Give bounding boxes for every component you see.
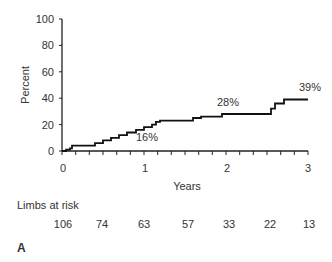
y-tick-labels: 0 20 40 60 80 100: [36, 13, 54, 157]
annotation-28pct: 28%: [217, 96, 239, 108]
x-axis-label: Years: [173, 180, 201, 192]
risk-value: 63: [138, 218, 150, 230]
x-tick-labels: 0 1 2 3: [60, 162, 311, 174]
risk-value: 13: [303, 218, 315, 230]
y-tick-0: 0: [48, 145, 54, 157]
annotation-16pct: 16%: [136, 131, 158, 143]
y-tick-80: 80: [42, 39, 54, 51]
y-tick-60: 60: [42, 66, 54, 78]
panel-label: A: [17, 241, 26, 255]
annotation-39pct: 39%: [299, 81, 321, 93]
x-tick-1: 1: [142, 162, 148, 174]
chart-svg: 0 20 40 60 80 100 0 1 2 3 16% 28% 39: [0, 0, 332, 262]
risk-table-label: Limbs at risk: [17, 199, 79, 211]
y-tick-40: 40: [42, 92, 54, 104]
y-tick-100: 100: [36, 13, 54, 25]
risk-value: 57: [182, 218, 194, 230]
risk-value: 22: [264, 218, 276, 230]
risk-value: 33: [223, 218, 235, 230]
y-axis-label: Percent: [19, 66, 31, 104]
y-tick-20: 20: [42, 119, 54, 131]
risk-value: 74: [96, 218, 108, 230]
cumulative-incidence-curve: [62, 100, 308, 152]
risk-value: 106: [54, 218, 72, 230]
x-tick-0: 0: [60, 162, 66, 174]
x-tick-2: 2: [224, 162, 230, 174]
x-tick-3: 3: [305, 162, 311, 174]
risk-table-values: 106 74 63 57 33 22 13: [54, 218, 315, 230]
